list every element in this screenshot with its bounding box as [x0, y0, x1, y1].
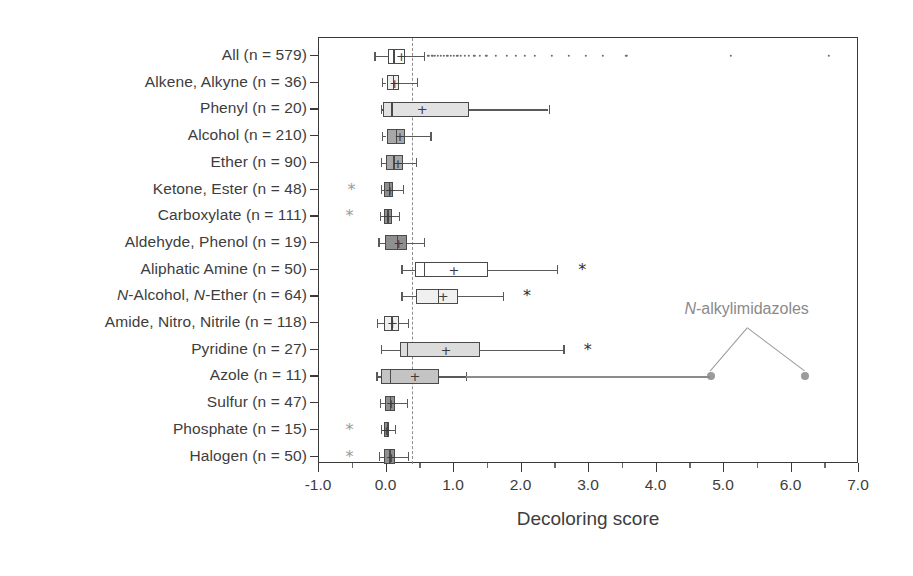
y-axis-label: Phosphate (n = 15) [173, 420, 307, 438]
x-tick-minor [352, 463, 353, 468]
y-axis-label: Amide, Nitro, Nitrile (n = 118) [105, 313, 307, 331]
x-tick-label: -1.0 [305, 476, 332, 494]
x-tick-label: 0.0 [375, 476, 397, 494]
x-tick-label: 1.0 [442, 476, 464, 494]
x-tick-minor [757, 463, 758, 468]
x-tick-minor [622, 463, 623, 468]
y-tick [310, 215, 318, 216]
x-tick-label: 4.0 [645, 476, 667, 494]
y-axis-label: Sulfur (n = 47) [207, 393, 307, 411]
y-tick [310, 242, 318, 243]
y-axis-label: Ether (n = 90) [210, 153, 307, 171]
x-tick-major [656, 463, 657, 472]
y-axis-label: Aliphatic Amine (n = 50) [140, 260, 307, 278]
x-axis-title: Decoloring score [517, 508, 660, 530]
chart-root: All (n = 579)Alkene, Alkyne (n = 36)Phen… [0, 0, 913, 576]
box-plot-group: +* [319, 38, 859, 464]
y-tick [310, 82, 318, 83]
x-tick-minor [487, 463, 488, 468]
y-axis-label: Halogen (n = 50) [190, 447, 308, 465]
x-tick-major [521, 463, 522, 472]
x-tick-major [791, 463, 792, 472]
y-axis-label: Alcohol (n = 210) [188, 126, 307, 144]
x-tick-major [318, 463, 319, 472]
x-tick-minor [554, 463, 555, 468]
y-tick [310, 349, 318, 350]
y-tick [310, 429, 318, 430]
x-tick-major [453, 463, 454, 472]
y-axis-label: Pyridine (n = 27) [191, 340, 307, 358]
x-tick-major [858, 463, 859, 472]
y-tick [310, 375, 318, 376]
y-tick [310, 456, 318, 457]
x-tick-major [386, 463, 387, 472]
y-tick [310, 135, 318, 136]
mean-marker: + [386, 450, 397, 463]
y-tick [310, 162, 318, 163]
y-axis-label: Alkene, Alkyne (n = 36) [145, 73, 307, 91]
x-tick-label: 7.0 [847, 476, 869, 494]
y-axis-label: N-Alcohol, N-Ether (n = 64) [117, 286, 307, 304]
x-tick-major [723, 463, 724, 472]
y-axis-label: Carboxylate (n = 111) [158, 206, 307, 224]
x-tick-minor [824, 463, 825, 468]
y-tick [310, 55, 318, 56]
x-tick-label: 2.0 [510, 476, 532, 494]
x-tick-minor [419, 463, 420, 468]
y-tick [310, 189, 318, 190]
y-axis-label: Aldehyde, Phenol (n = 19) [125, 233, 307, 251]
x-tick-major [588, 463, 589, 472]
y-tick [310, 295, 318, 296]
x-tick-label: 6.0 [780, 476, 802, 494]
y-axis-label: Phenyl (n = 20) [200, 99, 307, 117]
x-tick-label: 5.0 [712, 476, 734, 494]
y-tick [310, 402, 318, 403]
y-tick [310, 322, 318, 323]
whisker-cap-high [408, 452, 409, 461]
y-axis-label: Ketone, Ester (n = 48) [153, 180, 307, 198]
y-axis-label: All (n = 579) [222, 46, 307, 64]
plot-frame: ++++++*+*++*+*++*+++*+* [318, 37, 858, 463]
x-tick-label: 3.0 [577, 476, 599, 494]
y-axis-label: Azole (n = 11) [210, 366, 307, 384]
whisker-cap-low [379, 452, 380, 461]
y-tick [310, 108, 318, 109]
y-tick [310, 269, 318, 270]
x-tick-minor [689, 463, 690, 468]
annotation-n-alkylimidazoles: N-alkylimidazoles [684, 300, 808, 318]
